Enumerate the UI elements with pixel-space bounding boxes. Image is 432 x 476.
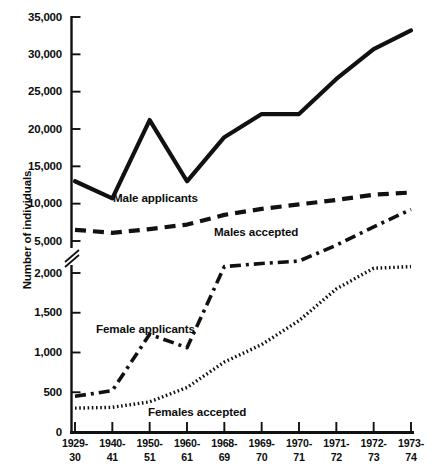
- series-label-males-accepted: Males accepted: [214, 225, 298, 238]
- y-axis-tick-label: 35,000: [0, 11, 62, 23]
- x-axis-ticks: [75, 422, 411, 432]
- y-axis-tick-label: 500: [0, 386, 62, 398]
- series-label-females-accepted: Females accepted: [148, 405, 246, 418]
- x-axis-tick-label-line: 74: [389, 451, 432, 465]
- y-axis-tick-label: 10,000: [0, 197, 62, 209]
- series-line-male-applicants: [75, 30, 411, 198]
- y-axis-tick-label: 5,000: [0, 235, 62, 247]
- y-axis-tick-label: 25,000: [0, 85, 62, 97]
- y-axis-tick-label: 1,000: [0, 346, 62, 358]
- y-axis-tick-label: 1,500: [0, 306, 62, 318]
- y-axis-tick-label: 15,000: [0, 160, 62, 172]
- chart-figure: Number of individuals 5,00010,00015,0002…: [0, 0, 432, 476]
- series-lines: [75, 30, 411, 408]
- y-axis-tick-label: 2,000: [0, 267, 62, 279]
- x-axis-tick-label: 1973-74: [389, 437, 432, 464]
- x-axis-tick-label-line: 1973-: [389, 437, 432, 451]
- y-axis-tick-label: 30,000: [0, 48, 62, 60]
- y-axis-tick-label: 20,000: [0, 123, 62, 135]
- y-axis-ticks: [72, 17, 81, 432]
- series-label-male-applicants: Male applicants: [113, 191, 198, 204]
- y-axis-break-icon: [65, 248, 79, 267]
- series-label-female-applicants: Female applicants: [96, 322, 195, 335]
- series-line-females-accepted: [75, 267, 411, 409]
- y-axis-tick-label: 0: [0, 426, 62, 438]
